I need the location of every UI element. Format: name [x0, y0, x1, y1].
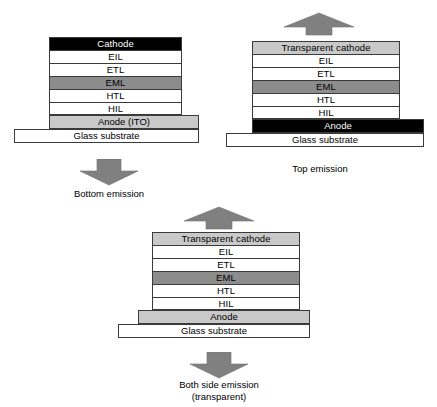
layer-etl: ETL [152, 258, 300, 271]
layer-glass-substrate: Glass substrate [226, 133, 424, 147]
layer-eil: EIL [152, 245, 300, 258]
emission-arrow-down-icon [79, 159, 139, 186]
layer-etl: ETL [252, 67, 400, 80]
layer-eil: EIL [252, 54, 400, 67]
layer-hil: HIL [49, 102, 182, 115]
layer-glass-substrate: Glass substrate [14, 129, 199, 143]
layer-stack-top-emission: Transparent cathode EIL ETL EML HTL HIL [252, 41, 400, 119]
layer-eml: EML [252, 80, 400, 93]
caption-bottom-emission: Bottom emission [44, 188, 174, 200]
emission-arrow-down-icon [189, 352, 249, 379]
layer-stack-bottom-emission: Cathode EIL ETL EML HTL HIL [49, 37, 182, 115]
layer-transparent-cathode: Transparent cathode [152, 232, 300, 245]
caption-both-side-emission-line2: (transparent) [154, 391, 284, 403]
caption-top-emission: Top emission [255, 163, 385, 175]
layer-eil: EIL [49, 50, 182, 63]
caption-both-side-emission-line1: Both side emission [154, 379, 284, 391]
layer-htl: HTL [152, 284, 300, 297]
layer-stack-both-side-emission: Transparent cathode EIL ETL EML HTL HIL [152, 232, 300, 310]
emission-arrow-up-icon [283, 12, 355, 36]
layer-eml: EML [152, 271, 300, 284]
layer-hil: HIL [252, 106, 400, 119]
layer-transparent-cathode: Transparent cathode [252, 41, 400, 54]
layer-etl: ETL [49, 63, 182, 76]
layer-htl: HTL [252, 93, 400, 106]
layer-cathode: Cathode [49, 37, 182, 50]
layer-glass-substrate: Glass substrate [118, 324, 310, 338]
layer-hil: HIL [152, 297, 300, 310]
layer-anode: Anode [252, 119, 424, 133]
layer-anode-ito: Anode (ITO) [49, 115, 199, 129]
layer-eml: EML [49, 76, 182, 89]
oled-architectures-diagram: Cathode EIL ETL EML HTL HIL Anode (ITO) … [0, 0, 437, 407]
layer-anode: Anode [138, 310, 310, 324]
layer-htl: HTL [49, 89, 182, 102]
emission-arrow-up-icon [183, 206, 255, 230]
